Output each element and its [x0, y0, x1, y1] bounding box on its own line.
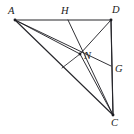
geometry-figure: AHDNGC — [0, 0, 134, 134]
point-label-c: C — [111, 118, 118, 129]
vertex-dot-n — [79, 53, 82, 56]
vertex-dot-a — [14, 19, 17, 22]
figure-canvas — [0, 0, 134, 134]
point-label-d: D — [112, 5, 120, 16]
point-label-g: G — [115, 64, 123, 75]
point-label-a: A — [8, 6, 14, 17]
point-label-n: N — [84, 51, 91, 62]
cevian-H-to-C — [68, 20, 113, 115]
cevian-N-to-C — [80, 54, 113, 115]
cevian-A-to-G — [15, 20, 111, 66]
vertex-dot-c — [112, 114, 115, 117]
segment-layer — [15, 20, 113, 115]
vertex-dot-d — [110, 19, 113, 22]
point-label-h: H — [61, 6, 69, 17]
cevian-D-to-C-through-N — [111, 20, 113, 115]
segment-N-to-P — [62, 54, 80, 68]
cevian-D-to-N — [80, 20, 111, 54]
